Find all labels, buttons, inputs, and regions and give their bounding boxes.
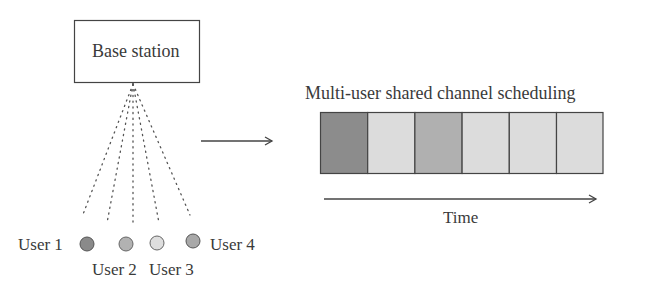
signal-lines [82,84,190,225]
slot-2 [368,113,415,174]
user-2-label: User 2 [92,261,137,278]
user-1-dot [80,237,94,251]
user-4-label: User 4 [210,236,255,253]
diagram: Base station Multi-user shared channel s… [0,0,645,282]
user-4-dot [186,234,200,248]
channel-strip [321,113,604,174]
slot-4 [462,113,509,174]
base-station-label: Base station [92,42,180,60]
user-3-label: User 3 [149,261,194,278]
user-1-label: User 1 [18,236,63,253]
user-3-dot [150,236,164,250]
slot-3 [415,113,462,174]
time-label: Time [443,209,478,226]
user-2-dot [119,237,133,251]
channel-title: Multi-user shared channel scheduling [305,84,575,102]
slot-5 [509,113,556,174]
slot-1 [321,113,368,174]
slot-6 [557,113,604,174]
